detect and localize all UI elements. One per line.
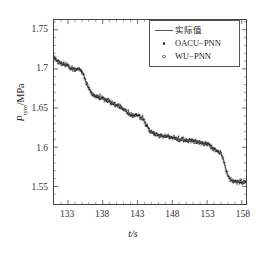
y-axis-unit: MPa bbox=[15, 84, 26, 103]
x-tick-label: 143 bbox=[122, 209, 152, 219]
legend-line-icon bbox=[153, 30, 175, 31]
x-axis-title: t/s bbox=[0, 228, 266, 239]
y-tick-label: 1.65 bbox=[4, 103, 48, 113]
legend-item-actual: 实际值 bbox=[153, 24, 235, 37]
y-axis-symbol: P bbox=[15, 115, 26, 121]
legend-item-oacu-pnn: OACU−PNN bbox=[153, 37, 235, 50]
chart-legend: 实际值 OACU−PNN WU−PNN bbox=[149, 20, 240, 67]
x-tick-label: 133 bbox=[52, 209, 82, 219]
series-actual-line bbox=[54, 56, 246, 184]
y-tick-label: 1.55 bbox=[4, 182, 48, 192]
x-tick-label: 153 bbox=[193, 209, 223, 219]
legend-item-wu-pnn: WU−PNN bbox=[153, 50, 235, 63]
chart-figure: Ptyre/MPa t/s 1.551.61.651.71.75 1331381… bbox=[0, 0, 266, 256]
series-oacu-pnn-markers bbox=[54, 56, 246, 185]
legend-label-actual: 实际值 bbox=[175, 26, 202, 35]
legend-filled-dot-icon bbox=[153, 42, 175, 45]
legend-label-oacu-pnn: OACU−PNN bbox=[175, 39, 221, 48]
legend-open-circle-icon bbox=[153, 55, 175, 58]
x-tick-label: 138 bbox=[87, 209, 117, 219]
x-axis-title-text: t/s bbox=[128, 228, 137, 239]
y-tick-label: 1.7 bbox=[4, 63, 48, 73]
legend-label-wu-pnn: WU−PNN bbox=[175, 52, 211, 61]
y-tick-label: 1.6 bbox=[4, 143, 48, 153]
x-tick-label: 158 bbox=[228, 209, 258, 219]
x-tick-label: 148 bbox=[157, 209, 187, 219]
y-tick-label: 1.75 bbox=[4, 24, 48, 34]
